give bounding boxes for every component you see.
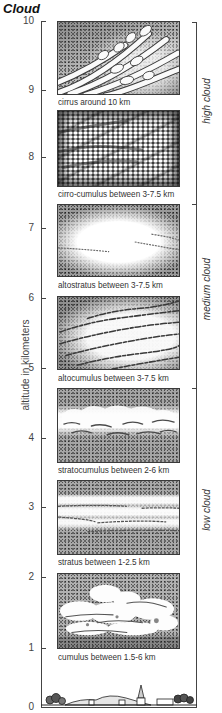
axis-tick-6 (41, 298, 46, 299)
altostratus-streaks-icon (58, 205, 179, 276)
group-divider-medium-low (192, 388, 197, 389)
stratocumulus-layer-icon (58, 389, 179, 462)
axis-tick-label: 0 (10, 702, 34, 712)
group-divider-high-medium (192, 204, 197, 205)
group-bracket-top (192, 22, 197, 23)
axis-tick-label: 6 (10, 293, 34, 303)
axis-tick-4 (41, 438, 46, 439)
axis-tick-3 (41, 507, 46, 508)
group-bracket-line (196, 22, 197, 708)
axis-tick-8 (41, 157, 46, 158)
axis-tick-label: 9 (10, 85, 34, 95)
diagram-title: Cloud (3, 1, 40, 16)
axis-tick-label: 2 (10, 572, 34, 582)
cirro-cumulus-illustration (57, 110, 180, 187)
altostratus-illustration (57, 204, 180, 277)
axis-tick-label: 1 (10, 643, 34, 653)
axis-title: altitude in kilometers (20, 319, 31, 410)
caption-altostratus: altostratus between 3-7.5 km (58, 279, 163, 290)
ground-baseline (41, 707, 197, 708)
caption-cumulus: cumulus between 1.5-6 km (58, 651, 156, 662)
caption-cirrus: cirrus around 10 km (58, 96, 130, 107)
axis-tick-9 (41, 90, 46, 91)
cumulus-illustration (57, 573, 180, 649)
caption-stratus: stratus between 1-2.5 km (58, 556, 150, 567)
altocumulus-illustration (57, 296, 180, 370)
axis-tick-10 (41, 21, 46, 22)
axis-tick-1 (41, 648, 46, 649)
axis-tick-label: 7 (10, 223, 34, 233)
axis-tick-5 (41, 368, 46, 369)
caption-stratocumulus: stratocumulus between 2-6 km (58, 464, 169, 475)
cumulus-puffs-icon (58, 574, 179, 648)
cirrus-illustration (57, 21, 180, 95)
group-label-high: high cloud (201, 78, 212, 124)
cirro-cumulus-bands-icon (58, 111, 179, 186)
group-label-medium: medium cloud (201, 258, 212, 320)
stratocumulus-illustration (57, 388, 180, 463)
axis-tick-2 (41, 577, 46, 578)
group-label-low: low cloud (201, 489, 212, 531)
axis-tick-label: 4 (10, 433, 34, 443)
landscape-ground-icon (41, 683, 197, 707)
stratus-illustration (57, 480, 180, 555)
axis-tick-label: 8 (10, 152, 34, 162)
altocumulus-rolls-icon (58, 297, 179, 369)
caption-cirro-cumulus: cirro-cumulus between 3-7.5 km (58, 188, 174, 199)
axis-tick-label: 10 (10, 16, 34, 26)
altitude-axis-line (41, 21, 42, 708)
axis-tick-label: 3 (10, 502, 34, 512)
caption-altocumulus: altocumulus between 3-7.5 km (58, 372, 169, 383)
stratus-bands-icon (58, 481, 179, 554)
cirrus-streaks-icon (58, 22, 179, 94)
axis-tick-7 (41, 228, 46, 229)
